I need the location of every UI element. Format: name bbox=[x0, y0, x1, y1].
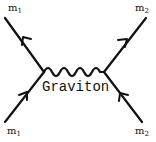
label-subscript: 2 bbox=[144, 130, 148, 138]
label-m2-bottom: m2 bbox=[135, 126, 149, 138]
label-m2-top: m2 bbox=[135, 3, 149, 15]
label-subscript: 1 bbox=[16, 130, 20, 138]
graviton-label: Graviton bbox=[42, 80, 109, 94]
feynman-diagram bbox=[0, 0, 156, 142]
label-subscript: 2 bbox=[144, 7, 148, 15]
graviton-wavy-line bbox=[44, 68, 104, 76]
label-m1-top: m1 bbox=[8, 3, 22, 15]
label-subscript: 1 bbox=[17, 7, 21, 15]
fermion-line-top-left bbox=[5, 18, 44, 72]
fermion-line-bottom-left bbox=[5, 72, 44, 122]
arrow-icon-top-right bbox=[118, 39, 127, 47]
fermion-line-bottom-right bbox=[104, 72, 142, 122]
label-m1-bottom: m1 bbox=[7, 126, 21, 138]
